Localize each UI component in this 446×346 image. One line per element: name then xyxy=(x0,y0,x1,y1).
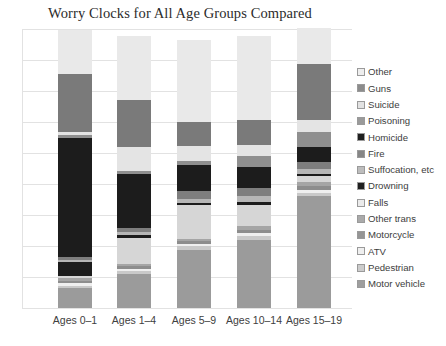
bar-stack-1[interactable] xyxy=(58,30,92,308)
legend-label: ATV xyxy=(368,247,386,257)
bar-segment[interactable] xyxy=(117,147,151,171)
bar-segment[interactable] xyxy=(297,196,331,308)
bar-segment[interactable] xyxy=(117,274,151,308)
legend-swatch-icon xyxy=(357,280,365,288)
bar-segment[interactable] xyxy=(177,250,211,308)
legend-label: Pedestrian xyxy=(368,263,414,273)
legend-item-11[interactable]: ATV xyxy=(357,243,445,259)
bar-stack-5[interactable] xyxy=(297,28,331,308)
legend-label: Other trans xyxy=(368,214,416,224)
bar-segment[interactable] xyxy=(237,156,271,167)
legend-swatch-icon xyxy=(357,231,365,239)
legend-label: Guns xyxy=(368,84,391,94)
legend-item-5[interactable]: Fire xyxy=(357,145,445,161)
bar-stack-3[interactable] xyxy=(177,40,211,308)
legend-item-6[interactable]: Suffocation, etc xyxy=(357,162,445,178)
legend-label: Fire xyxy=(368,149,385,159)
bar-segment[interactable] xyxy=(177,146,211,161)
legend-swatch-icon xyxy=(357,133,365,141)
bar-stack-inner xyxy=(117,36,151,308)
chart-title: Worry Clocks for All Age Groups Compared xyxy=(0,5,360,22)
plot-area xyxy=(22,29,352,309)
bar-segment[interactable] xyxy=(297,162,331,169)
bar-segment[interactable] xyxy=(237,145,271,156)
legend-label: Suicide xyxy=(368,100,399,110)
legend-item-12[interactable]: Pedestrian xyxy=(357,260,445,276)
bar-stack-inner xyxy=(297,28,331,308)
legend-item-10[interactable]: Motorcycle xyxy=(357,227,445,243)
bar-segment[interactable] xyxy=(297,64,331,120)
chart-legend: OtherGunsSuicidePoisoningHomicideFireSuf… xyxy=(357,64,445,292)
bar-segment[interactable] xyxy=(237,188,271,196)
y-axis-line xyxy=(22,29,23,309)
legend-label: Falls xyxy=(368,198,388,208)
legend-item-8[interactable]: Falls xyxy=(357,194,445,210)
legend-swatch-icon xyxy=(357,117,365,125)
bar-segment[interactable] xyxy=(117,100,151,146)
legend-item-0[interactable]: Other xyxy=(357,64,445,80)
bar-segment[interactable] xyxy=(117,238,151,264)
legend-item-3[interactable]: Poisoning xyxy=(357,113,445,129)
bar-segment[interactable] xyxy=(237,167,271,189)
legend-item-4[interactable]: Homicide xyxy=(357,129,445,145)
bar-segment[interactable] xyxy=(177,165,211,192)
legend-label: Drowning xyxy=(368,181,409,191)
chart-container: Worry Clocks for All Age Groups Compared… xyxy=(0,0,446,346)
legend-swatch-icon xyxy=(357,150,365,158)
gridline xyxy=(22,308,352,309)
bar-segment[interactable] xyxy=(237,240,271,308)
bar-segment[interactable] xyxy=(117,36,151,100)
bar-stack-inner xyxy=(177,40,211,308)
legend-item-2[interactable]: Suicide xyxy=(357,97,445,113)
bar-segment[interactable] xyxy=(117,174,151,228)
legend-label: Poisoning xyxy=(368,116,410,126)
bar-segment[interactable] xyxy=(58,262,92,276)
legend-swatch-icon xyxy=(357,215,365,223)
bar-segment[interactable] xyxy=(237,205,271,227)
bar-segment[interactable] xyxy=(58,138,92,258)
bar-stack-inner xyxy=(237,36,271,308)
legend-label: Homicide xyxy=(368,133,408,143)
bar-segment[interactable] xyxy=(237,120,271,144)
bar-segment[interactable] xyxy=(297,28,331,64)
bar-stack-inner xyxy=(58,30,92,308)
bar-segment[interactable] xyxy=(177,40,211,122)
bar-segment[interactable] xyxy=(58,288,92,307)
legend-label: Motor vehicle xyxy=(368,279,425,289)
legend-swatch-icon xyxy=(357,199,365,207)
legend-swatch-icon xyxy=(357,101,365,109)
bar-segment[interactable] xyxy=(177,205,211,239)
legend-item-9[interactable]: Other trans xyxy=(357,211,445,227)
legend-swatch-icon xyxy=(357,264,365,272)
bar-segment[interactable] xyxy=(177,122,211,146)
bar-stack-2[interactable] xyxy=(117,36,151,308)
bar-segment[interactable] xyxy=(297,147,331,162)
x-tick-label-5: Ages 15–19 xyxy=(275,314,353,326)
legend-item-13[interactable]: Motor vehicle xyxy=(357,276,445,292)
bar-segment[interactable] xyxy=(297,132,331,147)
legend-item-7[interactable]: Drowning xyxy=(357,178,445,194)
legend-item-1[interactable]: Guns xyxy=(357,80,445,96)
legend-label: Other xyxy=(368,67,392,77)
bar-segment[interactable] xyxy=(58,30,92,74)
legend-swatch-icon xyxy=(357,182,365,190)
bar-segment[interactable] xyxy=(58,74,92,132)
legend-swatch-icon xyxy=(357,166,365,174)
legend-label: Suffocation, etc xyxy=(368,165,434,175)
bar-segment[interactable] xyxy=(297,120,331,131)
legend-swatch-icon xyxy=(357,84,365,92)
legend-swatch-icon xyxy=(357,68,365,76)
legend-label: Motorcycle xyxy=(368,230,414,240)
bar-segment[interactable] xyxy=(237,36,271,120)
legend-swatch-icon xyxy=(357,247,365,255)
bar-segment[interactable] xyxy=(177,191,211,199)
bar-stack-4[interactable] xyxy=(237,36,271,308)
